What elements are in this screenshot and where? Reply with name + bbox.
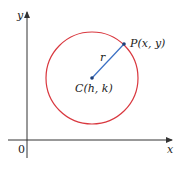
x-axis-label: x [167, 144, 173, 155]
radius-label: r [100, 52, 105, 63]
origin-label: 0 [18, 144, 25, 155]
y-axis-label: y [17, 10, 23, 21]
point-p-label: P(x, y) [130, 38, 165, 49]
radius-line [92, 44, 124, 78]
center-point [90, 76, 94, 80]
center-label: C(h, k) [75, 83, 113, 94]
circle-diagram: y 0 x P(x, y) r C(h, k) [0, 0, 184, 171]
point-p [122, 42, 126, 46]
